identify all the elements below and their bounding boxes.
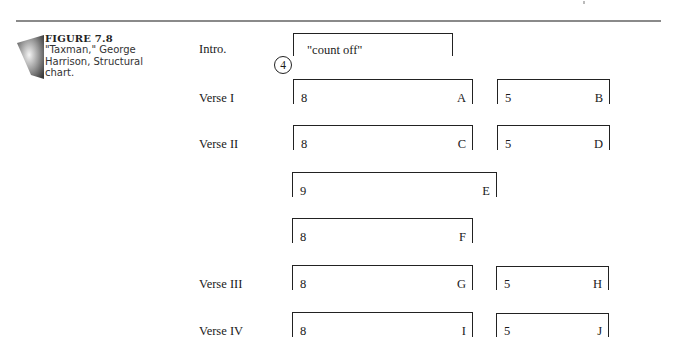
- bar-count: 5: [504, 277, 510, 292]
- bar-count: 8: [301, 137, 307, 152]
- gradient-trapezoid-icon: [17, 35, 44, 79]
- block-letter: A: [457, 91, 466, 106]
- block-F: 8 F: [292, 218, 473, 243]
- bar-count: 5: [505, 91, 511, 106]
- stray-mark: [583, 1, 585, 4]
- top-rule: [16, 20, 661, 22]
- block-letter: H: [593, 277, 602, 292]
- section-label-verse-3: Verse III: [199, 277, 242, 292]
- block-letter: J: [597, 324, 602, 339]
- bar-count: 8: [300, 277, 306, 292]
- block-letter: I: [462, 324, 466, 339]
- block-letter: G: [457, 277, 466, 292]
- block-letter: C: [458, 137, 466, 152]
- block-J: 5 J: [496, 313, 609, 337]
- section-label-verse-1: Verse I: [199, 91, 234, 106]
- block-H: 5 H: [496, 266, 609, 290]
- section-label-intro: Intro.: [199, 42, 226, 57]
- figure-caption: "Taxman," George Harrison, Structural ch…: [45, 44, 175, 79]
- bar-count: 5: [504, 324, 510, 339]
- section-label-verse-2: Verse II: [199, 137, 238, 152]
- block-letter: F: [459, 230, 466, 245]
- block-G: 8 G: [292, 265, 473, 290]
- block-A: 8 A: [293, 79, 473, 104]
- bar-count: 8: [300, 230, 306, 245]
- block-I: 8 I: [292, 312, 473, 337]
- bar-count: 8: [300, 324, 306, 339]
- section-label-verse-4: Verse IV: [199, 324, 243, 339]
- bar-count: 9: [300, 184, 306, 199]
- count-off-text: "count off": [307, 43, 362, 58]
- bar-count: 5: [505, 137, 511, 152]
- block-letter: B: [595, 91, 603, 106]
- block-C: 8 C: [293, 125, 473, 150]
- block-letter: E: [482, 184, 490, 199]
- block-D: 5 D: [497, 125, 610, 150]
- block-E: 9 E: [292, 172, 497, 197]
- intro-block: "count off": [293, 33, 453, 56]
- bar-count: 8: [301, 91, 307, 106]
- block-letter: D: [594, 137, 603, 152]
- figure-label: FIGURE 7.8: [45, 33, 113, 44]
- count-in-circle: 4: [274, 56, 292, 74]
- block-B: 5 B: [497, 79, 610, 104]
